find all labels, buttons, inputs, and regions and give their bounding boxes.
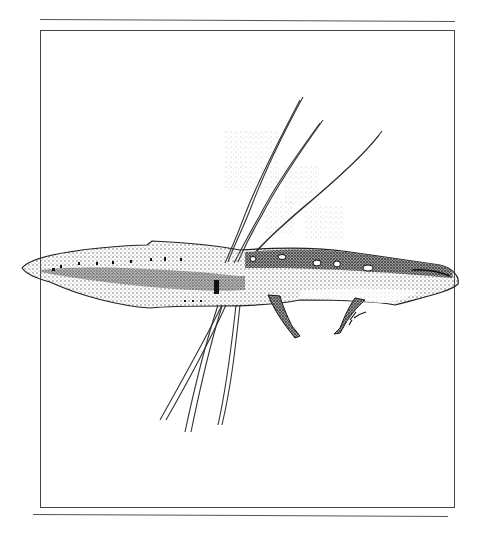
newt-illustration <box>0 0 481 533</box>
newt <box>22 241 458 338</box>
newt-front-leg <box>334 298 365 334</box>
